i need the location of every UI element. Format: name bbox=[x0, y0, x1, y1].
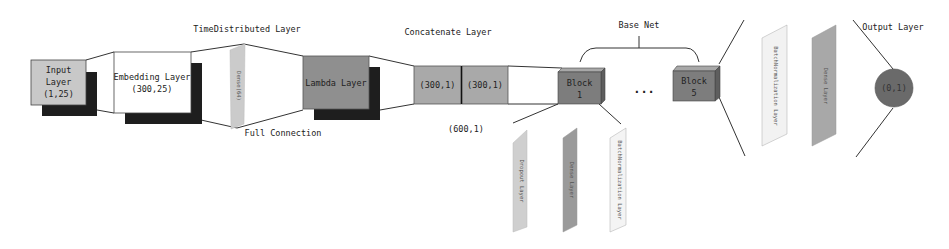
embedding-layer-shape: (300,25) bbox=[132, 84, 173, 94]
output-dense-label: Dense Layer bbox=[822, 68, 829, 105]
network-diagram: Input Layer (1,25) Embedding Layer (300,… bbox=[0, 0, 949, 249]
output-layer-title: Output Layer bbox=[862, 22, 923, 32]
block-1-number: 1 bbox=[577, 90, 582, 100]
input-layer: Input Layer (1,25) bbox=[31, 60, 97, 116]
batchnorm-slab-label: BatchNormalization Layer bbox=[616, 140, 623, 220]
concatenate-layer: (300,1) (300,1) bbox=[414, 66, 508, 104]
block-1-label: Block bbox=[567, 78, 593, 88]
concatenate-title: Concatenate Layer bbox=[405, 27, 492, 37]
time-distributed-slab: Dense(64) bbox=[230, 44, 245, 129]
output-detail: BatchNormalization Layer Dense Layer bbox=[762, 25, 836, 146]
output-node-label: (0,1) bbox=[881, 83, 907, 93]
input-layer-label-2: Layer bbox=[46, 77, 72, 87]
dropout-slab-label: Dropout Layer bbox=[518, 159, 525, 203]
concat-left-label: (300,1) bbox=[420, 80, 456, 90]
concat-right-label: (300,1) bbox=[467, 80, 503, 90]
lambda-layer: Lambda Layer bbox=[303, 56, 380, 120]
time-distributed-title: TimeDistributed Layer bbox=[193, 24, 300, 34]
lambda-layer-label: Lambda Layer bbox=[305, 78, 366, 88]
time-distributed-slab-label: Dense(64) bbox=[236, 71, 242, 101]
output-batchnorm-label: BatchNormalization Layer bbox=[772, 46, 779, 126]
block-5-label: Block bbox=[681, 76, 707, 86]
block-5: Block 5 bbox=[673, 66, 720, 101]
block-1: Block 1 bbox=[558, 68, 605, 104]
block-5-number: 5 bbox=[691, 88, 696, 98]
dense-slab-label: Dense Layer bbox=[568, 162, 575, 199]
input-layer-shape: (1,25) bbox=[43, 89, 74, 99]
output-node: (0,1) bbox=[875, 69, 913, 107]
ellipsis: ... bbox=[633, 82, 655, 96]
embedding-layer-label: Embedding Layer bbox=[114, 72, 191, 82]
block-detail: Dropout Layer Dense Layer BatchNormaliza… bbox=[513, 128, 626, 232]
input-layer-label-1: Input bbox=[46, 65, 72, 75]
embedding-layer: Embedding Layer (300,25) bbox=[114, 52, 202, 124]
concat-shape-label: (600,1) bbox=[448, 124, 484, 134]
base-net-title: Base Net bbox=[619, 20, 660, 30]
full-connection-label: Full Connection bbox=[245, 128, 322, 138]
